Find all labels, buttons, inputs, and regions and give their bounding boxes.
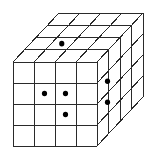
top-face-dot: [59, 41, 64, 47]
front-face-dot: [63, 91, 68, 97]
cube-diagram: [0, 0, 154, 155]
right-face-dot: [105, 99, 110, 105]
front-face-dot: [42, 91, 47, 97]
front-face-grid: [13, 62, 97, 146]
front-face-dot: [63, 112, 68, 118]
right-face-dot: [105, 78, 110, 84]
